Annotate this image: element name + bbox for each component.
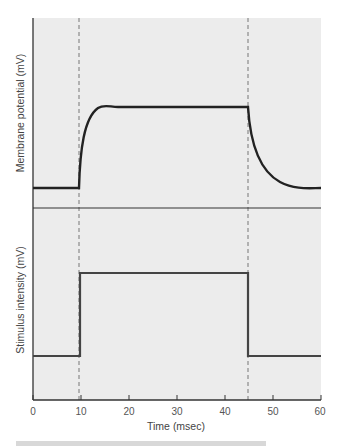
caption-cutoff bbox=[16, 441, 266, 446]
bottom-y-axis-label: Stimulus intensity (mV) bbox=[14, 246, 26, 353]
x-tick-50: 50 bbox=[267, 406, 279, 417]
x-axis-label: Time (msec) bbox=[147, 420, 205, 432]
x-tick-60: 60 bbox=[314, 406, 326, 417]
plot-background bbox=[33, 18, 321, 400]
x-tick-0: 0 bbox=[30, 406, 36, 417]
figure: 0 10 20 30 40 50 60 Time (msec) Membrane… bbox=[0, 0, 344, 446]
x-tick-10: 10 bbox=[75, 406, 87, 417]
x-tick-40: 40 bbox=[219, 406, 231, 417]
x-tick-20: 20 bbox=[123, 406, 135, 417]
top-y-axis-label: Membrane potential (mV) bbox=[14, 54, 26, 172]
x-tick-30: 30 bbox=[171, 406, 183, 417]
